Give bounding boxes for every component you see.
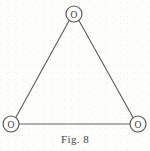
node-bottom-right: O [130, 116, 146, 132]
figure-caption: Fig. 8 [0, 133, 150, 145]
node-bottom-left: O [3, 116, 19, 132]
node-bottom-right-label: O [135, 120, 142, 130]
triangle-diagram: O O O [0, 0, 150, 151]
node-top-label: O [71, 10, 78, 20]
figure-container: O O O Fig. 8 [0, 0, 150, 151]
edge-top-to-bottom-left [16, 20, 69, 117]
edge-top-to-bottom-right [79, 21, 133, 118]
node-top: O [66, 6, 82, 22]
edge-group [16, 20, 133, 124]
node-bottom-left-label: O [8, 120, 15, 130]
